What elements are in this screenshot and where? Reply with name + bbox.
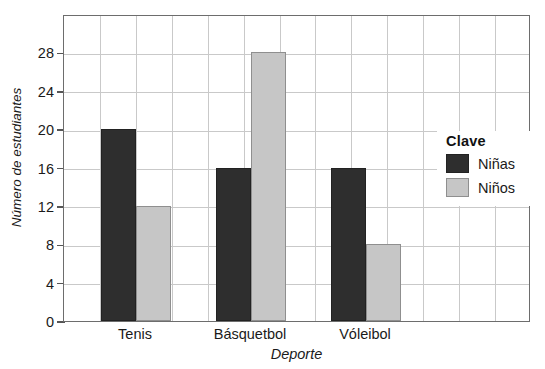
legend-swatch-ninos [446, 178, 469, 197]
legend-label: Niños [478, 180, 515, 196]
legend-label: Niñas [478, 156, 515, 172]
y-tick-label: 8 [20, 238, 54, 252]
legend-entries: NiñasNiños [437, 154, 533, 197]
bar-vóleibol-niñas [331, 168, 366, 322]
gridline-vertical [208, 16, 209, 321]
y-tick-label: 16 [20, 162, 54, 176]
y-tick-label: 0 [20, 315, 54, 329]
x-tick-label: Básquetbol [190, 326, 310, 342]
bar-básquetbol-niñas [216, 168, 251, 322]
x-axis-title: Deporte [63, 346, 530, 362]
chart-title [63, 0, 531, 5]
legend-entry-ninas: Niñas [446, 154, 533, 173]
y-tick-label: 20 [20, 123, 54, 137]
legend-swatch-ninas [446, 154, 469, 173]
gridline-vertical [423, 16, 424, 321]
legend-entry-ninos: Niños [446, 178, 533, 197]
y-tick-label: 28 [20, 46, 54, 60]
bar-básquetbol-niños [251, 52, 286, 321]
legend-title: Clave [446, 133, 533, 149]
legend: Clave NiñasNiños [437, 131, 533, 206]
y-tick-label: 12 [20, 200, 54, 214]
x-tick-label: Tenis [75, 326, 195, 342]
bar-vóleibol-niños [366, 244, 401, 321]
bar-chart: Número de estudiantes 0481216202428 Teni… [0, 0, 545, 369]
bar-tenis-niños [136, 206, 171, 321]
gridline-vertical [315, 16, 316, 321]
y-axis-title: Número de estudiantes [9, 48, 24, 268]
y-tick-label: 24 [20, 85, 54, 99]
gridline-vertical [172, 16, 173, 321]
x-tick-label: Vóleibol [305, 326, 425, 342]
y-tick-label: 4 [20, 277, 54, 291]
bar-tenis-niñas [101, 129, 136, 321]
